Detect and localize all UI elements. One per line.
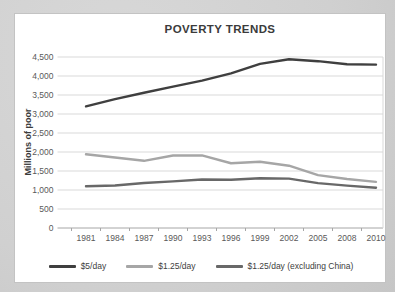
x-tick-2005: 2005 xyxy=(309,233,328,243)
line-swatch-125day xyxy=(126,265,153,268)
x-tick-1999: 1999 xyxy=(251,233,270,243)
svg-text:1,500: 1,500 xyxy=(32,166,54,176)
screenshot-root: { "page": { "background": "#d2d2d2" }, "… xyxy=(0,0,395,292)
svg-text:1,000: 1,000 xyxy=(32,185,54,195)
svg-text:4,500: 4,500 xyxy=(32,52,54,62)
svg-text:3,000: 3,000 xyxy=(32,109,54,119)
line-swatch-5day xyxy=(49,265,76,268)
x-tick-1990: 1990 xyxy=(164,233,183,243)
legend: $5/day $1.25/day $1.25/day (excluding Ch… xyxy=(15,257,387,275)
x-tick-2002: 2002 xyxy=(280,233,299,243)
svg-text:4,000: 4,000 xyxy=(32,71,54,81)
x-tick-1996: 1996 xyxy=(222,233,241,243)
x-tick-1984: 1984 xyxy=(106,233,125,243)
x-tick-1993: 1993 xyxy=(193,233,212,243)
svg-text:2,000: 2,000 xyxy=(32,147,54,157)
x-tick-1987: 1987 xyxy=(135,233,154,243)
legend-item-125day-excl-china: $1.25/day (excluding China) xyxy=(216,261,354,271)
legend-label-125day-excl-china: $1.25/day (excluding China) xyxy=(248,261,354,271)
legend-label-5day: $5/day xyxy=(81,261,107,271)
legend-item-125day: $1.25/day xyxy=(126,261,195,271)
poverty-trends-chart: POVERTY TRENDS Millions of poor 05001,00… xyxy=(14,13,386,283)
svg-text:2,500: 2,500 xyxy=(32,128,54,138)
x-tick-2008: 2008 xyxy=(338,233,357,243)
svg-text:3,500: 3,500 xyxy=(32,90,54,100)
svg-text:500: 500 xyxy=(39,204,53,214)
x-tick-1981: 1981 xyxy=(77,233,96,243)
plot-area: 05001,0001,5002,0002,5003,0003,5004,0004… xyxy=(15,14,387,254)
legend-item-5day: $5/day xyxy=(49,261,107,271)
legend-label-125day: $1.25/day xyxy=(158,261,195,271)
x-tick-2010: 2010 xyxy=(367,233,386,243)
svg-text:0: 0 xyxy=(49,223,54,233)
line-swatch-125day-excl-china xyxy=(216,265,243,268)
